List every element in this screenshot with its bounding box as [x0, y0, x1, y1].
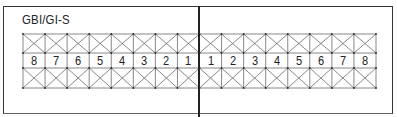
cell-label: 3	[245, 54, 264, 68]
cell-label: 7	[47, 54, 66, 68]
cell-label: 6	[69, 54, 88, 68]
cell-label: 6	[311, 54, 330, 68]
cell-label: 4	[267, 54, 286, 68]
cell-label: 4	[113, 54, 132, 68]
cell-label: 7	[334, 54, 353, 68]
cell-label: 2	[223, 54, 242, 68]
cell-label: 5	[91, 54, 110, 68]
center-divider-line	[198, 6, 200, 117]
cell-label: 8	[356, 54, 375, 68]
cell-label: 2	[157, 54, 176, 68]
cell-label: 1	[179, 54, 198, 68]
cell-label: 3	[135, 54, 154, 68]
cell-label: 8	[25, 54, 44, 68]
cell-label: 5	[289, 54, 308, 68]
cell-label: 1	[201, 54, 220, 68]
